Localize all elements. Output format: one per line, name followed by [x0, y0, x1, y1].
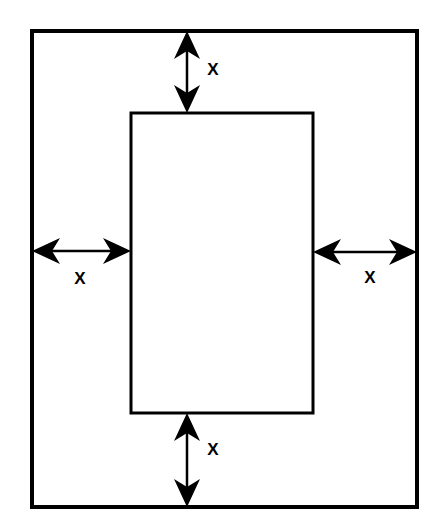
dimension-arrow-bottom — [174, 413, 200, 507]
dimension-label-right: X — [364, 268, 376, 287]
dimension-label-left: X — [74, 269, 86, 288]
dimension-arrow-top — [174, 31, 200, 113]
dimension-arrow-left — [32, 238, 131, 264]
dimension-label-top: X — [207, 60, 219, 79]
diagram-canvas: X X X X — [0, 0, 448, 530]
dimension-label-bottom: X — [207, 440, 219, 459]
outer-rectangle — [32, 31, 417, 507]
inner-rectangle — [131, 113, 313, 413]
technical-drawing-svg: X X X X — [0, 0, 448, 530]
dimension-arrow-right — [313, 239, 417, 265]
